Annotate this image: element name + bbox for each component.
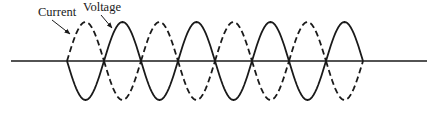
voltage-label-arrow xyxy=(101,15,112,28)
current-label: Current xyxy=(38,6,76,19)
voltage-label: Voltage xyxy=(83,1,121,14)
current-label-arrow xyxy=(52,20,70,34)
